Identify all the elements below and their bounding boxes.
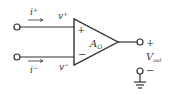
amplifier-minus-sign: − [78,49,86,60]
gain-label: AO [89,38,102,50]
current-plus-label: i+ [30,6,38,17]
inverting-input-terminal [14,54,20,60]
amplifier-plus-sign: + [77,24,85,35]
ground-terminal [137,68,143,74]
voltage-minus-label: v− [59,61,69,72]
current-minus-label: i− [30,64,38,75]
ground-icon [134,74,146,88]
voltage-plus-label: v+ [58,10,68,21]
output-terminal [137,39,143,45]
output-voltage-label: Vout [146,51,162,63]
current-arrow-minus-icon [28,60,43,63]
output-plus-sign: + [146,37,154,48]
current-arrow-plus-icon [28,19,43,22]
output-minus-sign: − [146,65,154,76]
op-amp-diagram: i+ v+ i− v− + − AO + Vout − [0,0,174,95]
noninverting-input-terminal [14,24,20,30]
